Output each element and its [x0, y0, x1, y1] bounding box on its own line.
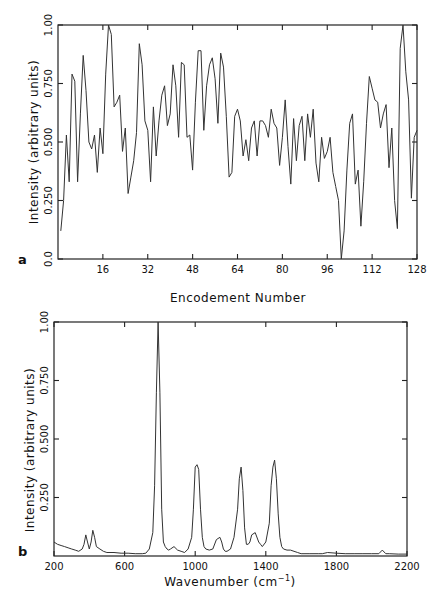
panel-a-chart: 163248648096112128 0.00.2500.5000.7501.0… [18, 14, 427, 305]
panel-a-x-tick-labels: 163248648096112128 [97, 264, 427, 275]
x-tick-label: 200 [44, 561, 63, 572]
panel-b-x-axis-title-main: Wavenumber (cm [164, 575, 278, 589]
y-tick-label: 1.00 [39, 311, 50, 333]
panel-b-y-tick-labels: 0.2500.5000.7501.00 [39, 311, 50, 512]
panel-a-label: a [18, 252, 27, 267]
panel-b-plot-frame [54, 322, 407, 556]
panel-a-y-axis-title: Intensity (arbitrary units) [27, 60, 41, 225]
panel-b-chart: 2006001000140018002200 0.2500.5000.7501.… [18, 311, 420, 589]
x-tick-label: 1800 [324, 561, 349, 572]
panel-b-label: b [18, 544, 27, 559]
x-tick-label: 2200 [394, 561, 419, 572]
y-tick-label: 0.250 [43, 186, 54, 215]
panel-b-x-tick-labels: 2006001000140018002200 [44, 561, 419, 572]
y-tick-label: 0.250 [39, 483, 50, 512]
panel-b-x-axis-title: Wavenumber (cm−1) [164, 574, 296, 589]
y-tick-label: 0.750 [43, 69, 54, 98]
x-tick-label: 1000 [182, 561, 207, 572]
x-tick-label: 128 [407, 264, 426, 275]
y-tick-label: 0.500 [43, 128, 54, 157]
x-tick-label: 64 [231, 264, 244, 275]
y-tick-label: 0.500 [39, 425, 50, 454]
y-tick-label: 0.0 [43, 251, 54, 267]
panel-b-y-axis-title: Intensity (arbitrary units) [23, 368, 37, 533]
panel-a-x-axis-title: Encodement Number [170, 291, 306, 305]
x-tick-label: 96 [321, 264, 334, 275]
x-tick-label: 112 [363, 264, 382, 275]
panel-a-y-tick-labels: 0.00.2500.5000.7501.00 [43, 14, 54, 267]
x-tick-label: 80 [276, 264, 289, 275]
panel-b-ticks [54, 322, 407, 556]
y-tick-label: 0.750 [39, 366, 50, 395]
panel-b-x-axis-title-end: ) [291, 575, 296, 589]
panel-b-x-axis-title-sup: −1 [278, 574, 291, 583]
x-tick-label: 1400 [253, 561, 278, 572]
panel-a-data-line [61, 25, 417, 259]
x-tick-label: 32 [141, 264, 154, 275]
figure: 163248648096112128 0.00.2500.5000.7501.0… [0, 0, 435, 600]
y-tick-label: 1.00 [43, 14, 54, 36]
x-tick-label: 48 [186, 264, 199, 275]
x-tick-label: 600 [115, 561, 134, 572]
x-tick-label: 16 [97, 264, 110, 275]
panel-b-data-line [54, 322, 407, 554]
